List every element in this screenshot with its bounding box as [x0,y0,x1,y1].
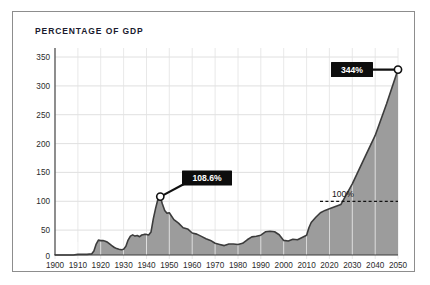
svg-text:100: 100 [36,197,50,206]
svg-text:1930: 1930 [114,261,133,270]
svg-text:1920: 1920 [92,261,111,270]
data-point-marker-108 [157,193,164,200]
svg-text:250: 250 [36,111,50,120]
svg-text:1990: 1990 [252,261,271,270]
svg-text:150: 150 [36,168,50,177]
svg-text:1980: 1980 [229,261,248,270]
area-chart-svg: 100% 350 300 250 200 150 100 50 0 1900 1… [13,12,416,273]
annotation-callout-wwii-peak: 108.6% [157,171,232,201]
svg-text:2040: 2040 [366,261,385,270]
svg-text:350: 350 [36,53,50,62]
chart-figure-frame: PERCENTAGE OF GDP [12,11,415,272]
svg-text:2030: 2030 [343,261,362,270]
svg-text:2050: 2050 [389,261,408,270]
plot-area: 100% 350 300 250 200 150 100 50 0 1900 1… [13,12,416,273]
x-axis-tick-labels: 1900 1910 1920 1930 1940 1950 1960 1970 … [46,261,408,270]
reference-line-label: 100% [332,189,354,199]
data-point-marker-344 [394,66,401,73]
svg-text:50: 50 [41,226,51,235]
svg-text:1910: 1910 [69,261,88,270]
svg-text:200: 200 [36,140,50,149]
svg-text:1960: 1960 [183,261,202,270]
svg-text:1900: 1900 [46,261,65,270]
annotation-label-344: 344% [341,65,363,75]
annotation-label-108: 108.6% [192,173,222,183]
svg-text:2020: 2020 [320,261,339,270]
y-axis-tick-labels: 350 300 250 200 150 100 50 0 [36,53,50,261]
svg-text:0: 0 [45,252,50,261]
svg-text:300: 300 [36,82,50,91]
svg-text:1940: 1940 [137,261,156,270]
svg-text:1950: 1950 [160,261,179,270]
svg-text:1970: 1970 [206,261,225,270]
svg-text:2000: 2000 [275,261,294,270]
debt-area-fill [55,70,398,255]
annotation-callout-2050: 344% [331,62,402,77]
svg-text:2010: 2010 [297,261,316,270]
